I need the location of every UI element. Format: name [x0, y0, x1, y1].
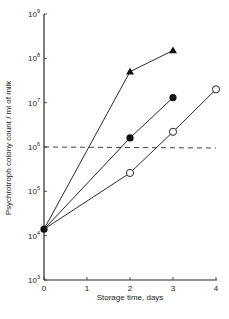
y-tick-label: 107 — [28, 97, 40, 108]
open-circle-marker — [212, 86, 219, 93]
triangle-marker — [126, 68, 134, 75]
y-axis-title: Psychrotroph colony count / ml of milk — [4, 80, 13, 216]
y-tick-label: 105 — [28, 185, 40, 196]
series-line-filled-triangle — [44, 51, 173, 230]
y-tick-label: 109 — [28, 8, 40, 19]
y-tick-label: 104 — [28, 230, 40, 241]
origin-marker — [40, 226, 47, 233]
chart: 10310410510610710810901234 Psychrotroph … — [0, 0, 229, 319]
x-tick-label: 1 — [85, 284, 90, 293]
x-tick-label: 3 — [171, 284, 176, 293]
open-circle-marker — [126, 169, 133, 176]
plot-area: 10310410510610710810901234 — [28, 8, 220, 293]
series-line-filled-circle — [44, 98, 173, 230]
open-circle-marker — [169, 128, 176, 135]
x-tick-label: 4 — [214, 284, 219, 293]
threshold-dashed-line — [44, 147, 216, 148]
y-tick-label: 108 — [28, 52, 40, 63]
x-axis-title: Storage time, days — [97, 293, 164, 302]
triangle-marker — [169, 47, 177, 54]
x-tick-label: 0 — [42, 284, 47, 293]
series-line-open-circle — [44, 89, 216, 229]
y-tick-label: 103 — [28, 274, 40, 285]
y-tick-label: 106 — [28, 141, 40, 152]
x-tick-label: 2 — [128, 284, 133, 293]
filled-circle-marker — [126, 134, 133, 141]
filled-circle-marker — [169, 94, 176, 101]
